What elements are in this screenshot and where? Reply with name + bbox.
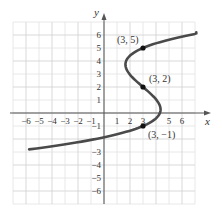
x-tick-label: 1 <box>115 116 120 126</box>
y-axis-arrow-icon <box>102 13 107 20</box>
graph: x y −6−5−4−3−2−112356654321−1−3−4−5−6 (3… <box>0 0 222 209</box>
x-tick-label: −6 <box>21 116 31 126</box>
data-point <box>140 123 145 128</box>
x-tick-label: 2 <box>128 116 133 126</box>
y-tick-label: −4 <box>91 160 101 170</box>
y-tick-label: 5 <box>97 43 102 53</box>
y-tick-label: −5 <box>91 173 101 183</box>
y-axis-label: y <box>93 6 99 18</box>
data-point <box>140 45 145 50</box>
y-tick-label: −6 <box>91 186 101 196</box>
x-tick-label: −2 <box>73 116 83 126</box>
x-tick-label: −3 <box>60 116 70 126</box>
data-point <box>140 84 145 89</box>
x-tick-label: 5 <box>167 116 172 126</box>
x-tick-label: −4 <box>47 116 57 126</box>
y-tick-label: 3 <box>97 69 102 79</box>
x-tick-label: 6 <box>180 116 185 126</box>
y-tick-label: 6 <box>97 30 102 40</box>
y-tick-label: 4 <box>97 56 102 66</box>
y-tick-label: 2 <box>97 82 102 92</box>
point-label: (3, −1) <box>148 129 175 141</box>
y-tick-label: 1 <box>97 95 102 105</box>
point-label: (3, 5) <box>117 34 139 46</box>
point-label: (3, 2) <box>149 73 171 85</box>
y-tick-label: −3 <box>91 147 101 157</box>
y-tick-label: −1 <box>91 121 101 131</box>
x-tick-label: −5 <box>34 116 44 126</box>
x-axis-label: x <box>204 115 210 127</box>
